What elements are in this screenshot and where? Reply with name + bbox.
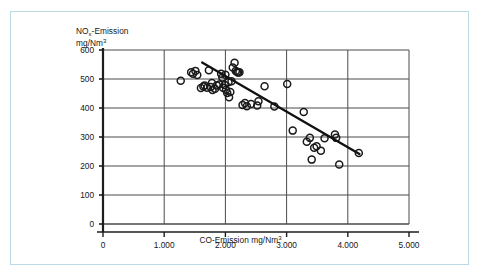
data-point <box>336 161 343 168</box>
x-tick-label: 2.000 <box>205 240 245 250</box>
y-axis-title-line1: NOx-Emission <box>76 26 128 36</box>
gridlines <box>103 50 409 224</box>
y-tick-label: 500 <box>66 74 94 84</box>
data-point <box>261 83 268 90</box>
y-axis-title-subscript: x <box>89 31 92 37</box>
x-tick-label: 5.000 <box>389 240 429 250</box>
data-point <box>284 80 291 87</box>
data-points <box>177 59 362 168</box>
axis-ticks <box>99 50 409 237</box>
y-tick-label: 600 <box>66 45 94 55</box>
data-point <box>300 109 307 116</box>
data-point <box>308 156 315 163</box>
data-point <box>289 127 296 134</box>
y-tick-label: 0 <box>66 219 94 229</box>
y-axis-title-superscript: 3 <box>103 38 106 44</box>
y-tick-label: 100 <box>66 190 94 200</box>
y-tick-label: 200 <box>66 161 94 171</box>
data-point <box>317 147 324 154</box>
x-tick-label: 0 <box>83 240 123 250</box>
data-point <box>177 77 184 84</box>
figure-frame: NOx-Emissionmg/Nm3 CO-Emission mg/Nm3 01… <box>10 11 469 265</box>
x-tick-label: 4.000 <box>328 240 368 250</box>
y-tick-label: 300 <box>66 132 94 142</box>
x-tick-label: 3.000 <box>267 240 307 250</box>
axes <box>97 48 419 232</box>
y-tick-label: 400 <box>66 103 94 113</box>
x-tick-label: 1.000 <box>144 240 184 250</box>
